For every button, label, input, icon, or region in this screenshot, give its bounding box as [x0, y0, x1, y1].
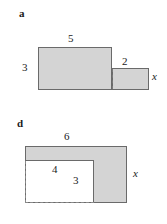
- figure-a-main-rectangle: [38, 47, 112, 90]
- figure-a-dimension-x: x: [152, 71, 157, 82]
- figure-d-inner-vertical-edge: [93, 160, 94, 203]
- figure-d-notch-cutout: [26, 161, 93, 202]
- figure-d-dimension-inner-horizontal: 4: [52, 164, 58, 175]
- panel-letter-d: d: [17, 118, 23, 129]
- figure-a-dimension-step-top: 2: [122, 56, 128, 67]
- figure-d-dimension-x: x: [133, 168, 138, 179]
- figure-a-dimension-top: 5: [68, 33, 74, 44]
- figure-d-dashed-bottom-line: [25, 202, 94, 203]
- figure-d-inner-horizontal-edge: [25, 160, 94, 161]
- figure-d-dimension-top: 6: [64, 131, 70, 142]
- figure-a-dimension-left: 3: [22, 62, 28, 73]
- figure-a-seam-dashed-line: [112, 69, 113, 89]
- figure-d-dimension-inner-vertical: 3: [73, 175, 79, 186]
- figure-page: a 5 3 2 x d 6 4 3 x: [0, 0, 167, 224]
- figure-d-dashed-left-line: [25, 161, 26, 203]
- figure-a-step-rectangle: [112, 68, 149, 90]
- panel-letter-a: a: [19, 8, 25, 19]
